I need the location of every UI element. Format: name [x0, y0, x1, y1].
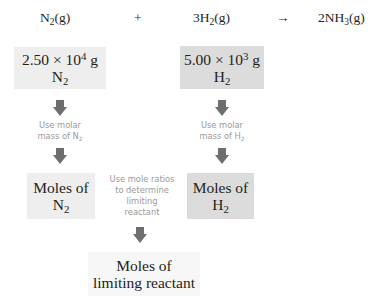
moles-h2-box: Moles of H2 — [187, 173, 254, 219]
reaction-arrow: → — [276, 10, 290, 26]
down-arrow-icon — [215, 100, 229, 116]
down-arrow-icon — [133, 227, 147, 243]
moles-n2-box: Moles of N2 — [27, 173, 95, 219]
down-arrow-icon — [53, 148, 67, 164]
molar-mass-n2-note: Use molar mass of N2 — [30, 120, 90, 142]
plus-sign: + — [134, 10, 142, 26]
down-arrow-icon — [53, 100, 67, 116]
mass-n2-box: 2.50 × 104 g N2 — [14, 47, 106, 89]
mole-ratios-note: Use mole ratios to determine limiting re… — [102, 174, 182, 218]
mass-h2-box: 5.00 × 103 g H2 — [180, 46, 264, 89]
product-nh3: 2NH3(g) — [318, 10, 365, 26]
reactant-h2: 3H2(g) — [193, 10, 230, 26]
moles-limiting-reactant-box: Moles of limiting reactant — [88, 252, 200, 296]
reactant-n2: N2(g) — [40, 10, 70, 26]
down-arrow-icon — [215, 148, 229, 164]
molar-mass-h2-note: Use molar mass of H2 — [192, 120, 252, 142]
